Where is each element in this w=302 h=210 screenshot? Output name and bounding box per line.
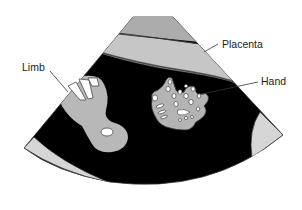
uterine-wall-right <box>251 112 283 158</box>
ultrasound-diagram: Limb Placenta Hand <box>0 0 302 210</box>
hand-label: Hand <box>261 75 286 87</box>
limb-bone <box>101 128 113 136</box>
placenta-label: Placenta <box>222 38 263 50</box>
limb-label: Limb <box>22 61 45 73</box>
ultrasound-sector <box>24 10 283 184</box>
placenta-leader-line <box>204 44 218 52</box>
limb-leader-line <box>50 71 68 92</box>
